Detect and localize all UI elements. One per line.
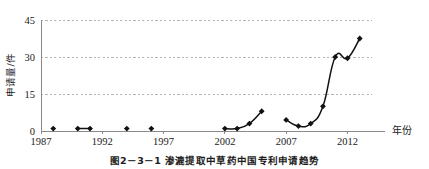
line-chart: 0153045 198719921997200220072012 年份 申请量/… — [0, 0, 429, 169]
gridlines — [41, 20, 372, 94]
x-tick-label: 1997 — [153, 136, 174, 147]
x-tick-label: 2002 — [214, 136, 235, 147]
y-axis-title: 申请量/件 — [5, 53, 16, 96]
series-markers — [50, 36, 362, 132]
data-point-marker — [296, 123, 302, 129]
figure-caption: 图2－3－1 渗漉提取中草药中国专利申请趋势 — [0, 152, 429, 169]
data-point-marker — [320, 103, 326, 109]
y-tick-labels: 0153045 — [25, 15, 36, 137]
series-lines — [78, 39, 360, 130]
series-line-segment — [225, 111, 262, 129]
x-tick-label: 2007 — [276, 136, 297, 147]
x-tick-label: 1992 — [92, 136, 113, 147]
y-tick-label: 15 — [25, 89, 36, 100]
figure-container: 0153045 198719921997200220072012 年份 申请量/… — [0, 0, 429, 169]
series-line-segment — [286, 39, 360, 127]
y-tick-label: 45 — [25, 15, 36, 26]
y-tick-label: 30 — [25, 52, 36, 63]
axes — [41, 20, 385, 131]
x-tick-labels: 198719921997200220072012 — [31, 136, 358, 147]
data-point-marker — [357, 36, 363, 42]
x-tick-label: 2012 — [337, 136, 358, 147]
x-axis-title: 年份 — [392, 124, 412, 136]
x-tick-label: 1987 — [31, 136, 52, 147]
